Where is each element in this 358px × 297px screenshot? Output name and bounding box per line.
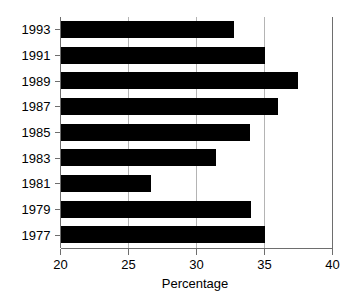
x-tick-label-25: 25 — [121, 257, 135, 272]
x-tick-label-40: 40 — [325, 257, 339, 272]
bar-chart: 2025303540 19931991198919871985198319811… — [0, 0, 358, 297]
chart-background — [0, 0, 358, 297]
bar-1979 — [60, 201, 251, 218]
y-tick-label-1993: 1993 — [22, 22, 51, 37]
bar-1981 — [60, 175, 151, 192]
bar-1985 — [60, 124, 250, 141]
y-tick-label-1989: 1989 — [22, 74, 51, 89]
bar-1983 — [60, 149, 216, 166]
bar-1989 — [60, 72, 298, 89]
x-tick-label-30: 30 — [189, 257, 203, 272]
x-axis-title: Percentage — [162, 276, 229, 291]
y-tick-label-1979: 1979 — [22, 202, 51, 217]
y-tick-label-1991: 1991 — [22, 48, 51, 63]
bar-1987 — [60, 98, 278, 115]
x-tick-label-35: 35 — [257, 257, 271, 272]
y-tick-label-1985: 1985 — [22, 125, 51, 140]
y-tick-label-1977: 1977 — [22, 228, 51, 243]
y-axis-ticks: 199319911989198719851983198119791977 — [22, 22, 61, 243]
chart-canvas: 2025303540 19931991198919871985198319811… — [0, 0, 358, 297]
bar-1993 — [60, 21, 234, 38]
bar-1991 — [60, 47, 265, 64]
y-tick-label-1983: 1983 — [22, 151, 51, 166]
y-tick-label-1981: 1981 — [22, 176, 51, 191]
y-tick-label-1987: 1987 — [22, 99, 51, 114]
x-tick-label-20: 20 — [53, 257, 67, 272]
bar-1977 — [60, 226, 265, 243]
